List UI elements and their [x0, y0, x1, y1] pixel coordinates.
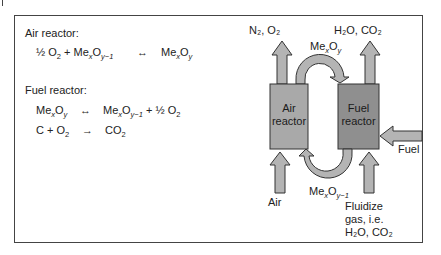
air-reactor-label-2: reactor [270, 115, 308, 127]
fuel-reactor-label-2: reactor [338, 115, 379, 127]
oxidized-carrier-label: MexOy [310, 40, 341, 52]
air-inlet-arrow [270, 152, 290, 193]
fluidize-gas-arrow [359, 152, 379, 193]
fuel-inlet-label: Fuel [398, 143, 419, 155]
air-outlet-label: N₂, O₂ [249, 24, 280, 36]
fluidize-gas-label-2: gas, i.e. [345, 213, 384, 225]
fuel-reactor-label-1: Fuel [338, 102, 379, 114]
oxidized-carrier-arrow [296, 54, 349, 84]
fuel-outlet-label: H₂O, CO₂ [334, 24, 382, 36]
air-inlet-label: Air [268, 196, 281, 208]
reduced-carrier-label: MexOy−1 [309, 185, 349, 197]
fluidize-gas-label-3: H₂O, CO₂ [345, 226, 393, 238]
air-reactor-label-1: Air [270, 102, 308, 114]
reduced-carrier-arrow [299, 149, 352, 178]
air-outlet-arrow [272, 41, 292, 84]
fuel-outlet-arrow [360, 41, 380, 84]
fluidize-gas-label-1: Fluidize [345, 200, 383, 212]
